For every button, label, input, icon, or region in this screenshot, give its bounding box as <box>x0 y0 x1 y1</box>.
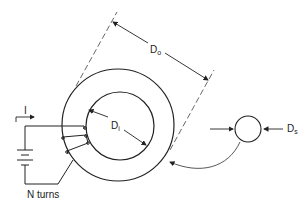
inner-diameter-label: Di <box>111 120 120 132</box>
inner-diameter-arrow-a <box>89 110 108 117</box>
current-label: I <box>24 105 27 116</box>
leader-curve <box>170 142 240 168</box>
current-arrow <box>16 117 34 122</box>
outer-diameter-arrow-b <box>165 53 208 80</box>
toroid-inner-circle <box>86 92 154 160</box>
dashed-extension-right <box>170 70 214 150</box>
dashed-extension-left <box>76 12 117 86</box>
turns-label: N turns <box>27 189 59 200</box>
outer-diameter-arrow-a <box>113 22 148 43</box>
toroid-diagram: Do Di I N turns Ds <box>0 0 308 205</box>
inner-diameter-arrow-b <box>124 130 146 145</box>
outer-diameter-label: Do <box>150 44 161 56</box>
cross-section-label: Ds <box>287 123 298 135</box>
battery-icon <box>17 126 33 184</box>
cross-section-circle <box>235 116 261 142</box>
winding <box>25 126 89 184</box>
